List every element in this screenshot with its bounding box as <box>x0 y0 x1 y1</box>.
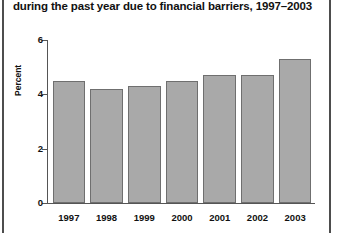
bar <box>90 89 123 203</box>
y-axis-line <box>47 40 48 204</box>
x-tick-label: 1997 <box>53 212 86 223</box>
bar <box>279 59 312 203</box>
chart-figure: during the past year due to financial ba… <box>0 0 337 233</box>
bar <box>241 75 274 203</box>
y-tick-label: 4 <box>38 87 43 100</box>
bar <box>128 86 161 203</box>
x-tick-label: 2001 <box>203 212 236 223</box>
y-tick-label: 0 <box>38 196 43 209</box>
bar <box>203 75 236 203</box>
x-axis-line <box>47 203 315 204</box>
x-tick-label: 2003 <box>279 212 312 223</box>
chart-title: during the past year due to financial ba… <box>13 0 323 14</box>
plot-area: 0246 1997199819992000200120022003 <box>47 40 315 203</box>
y-axis-label: Percent <box>13 65 23 96</box>
x-tick-label: 2002 <box>241 212 274 223</box>
y-tick-label: 2 <box>38 142 43 155</box>
y-tick-label: 6 <box>38 33 43 46</box>
bar <box>53 81 86 203</box>
x-tick-label: 1999 <box>128 212 161 223</box>
x-tick-label: 2000 <box>166 212 199 223</box>
page-rule-left <box>2 0 4 233</box>
bar <box>166 81 199 203</box>
page-rule-right <box>329 0 331 233</box>
x-tick-label: 1998 <box>90 212 123 223</box>
